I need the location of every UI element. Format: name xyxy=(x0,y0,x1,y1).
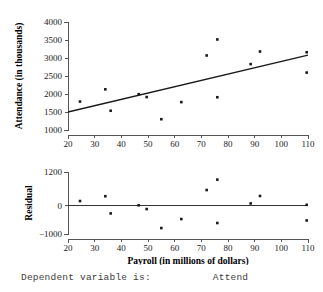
dependent-variable-label: Dependent variable is: xyxy=(21,272,151,283)
x-tick-label: 50 xyxy=(144,243,154,253)
residual-scatter-plot: −100001200Residual2030405060708090100110… xyxy=(24,167,315,265)
data-point xyxy=(216,96,219,99)
data-point xyxy=(145,208,148,211)
data-point xyxy=(79,200,82,203)
dependent-variable-value: Attend xyxy=(213,272,248,283)
x-tick-label: 30 xyxy=(90,139,100,149)
data-point xyxy=(216,222,219,225)
regression-figure: 1000150020002500300035004000Attendance (… xyxy=(0,0,323,292)
x-axis-title: Payroll (in millions of dollars) xyxy=(127,256,248,265)
x-tick-label: 30 xyxy=(90,243,100,253)
x-axis-spine xyxy=(68,239,308,243)
data-point xyxy=(305,204,308,207)
data-point xyxy=(216,38,219,41)
charts-svg: 1000150020002500300035004000Attendance (… xyxy=(0,0,323,265)
x-tick-label: 110 xyxy=(301,139,315,149)
data-point xyxy=(259,195,262,198)
data-point xyxy=(104,195,107,198)
regression-line xyxy=(68,55,308,112)
y-axis-spine xyxy=(64,172,68,234)
y-tick-label: 1000 xyxy=(44,125,63,135)
x-tick-label: 70 xyxy=(197,139,207,149)
x-tick-label: 40 xyxy=(117,139,127,149)
y-tick-label: 3500 xyxy=(44,35,63,45)
data-point xyxy=(145,96,148,99)
data-point xyxy=(109,212,112,215)
data-point xyxy=(104,88,107,91)
data-point xyxy=(109,109,112,112)
y-tick-label: 3000 xyxy=(44,53,63,63)
data-point xyxy=(305,219,308,222)
x-tick-label: 70 xyxy=(197,243,207,253)
x-tick-label: 50 xyxy=(144,139,154,149)
attendance-scatter-plot: 1000150020002500300035004000Attendance (… xyxy=(14,17,315,149)
x-axis-spine xyxy=(68,135,308,139)
data-point xyxy=(249,63,252,66)
data-point xyxy=(180,218,183,221)
data-point xyxy=(216,178,219,181)
y-tick-label: 4000 xyxy=(44,17,63,27)
x-tick-label: 80 xyxy=(224,139,234,149)
y-tick-label: −1000 xyxy=(39,229,63,239)
data-point xyxy=(305,51,308,54)
data-point xyxy=(249,202,252,205)
x-tick-label: 90 xyxy=(250,139,260,149)
y-axis-title: Attendance (in thousands) xyxy=(14,23,25,130)
data-point xyxy=(180,101,183,104)
data-point xyxy=(137,204,140,207)
data-point xyxy=(259,50,262,53)
x-tick-label: 40 xyxy=(117,243,127,253)
data-point xyxy=(160,227,163,230)
x-tick-label: 20 xyxy=(64,139,74,149)
x-tick-label: 100 xyxy=(275,243,289,253)
data-point xyxy=(160,118,163,121)
y-tick-label: 2000 xyxy=(44,89,63,99)
data-point xyxy=(137,93,140,96)
x-tick-label: 90 xyxy=(250,243,260,253)
y-axis-title: Residual xyxy=(24,185,34,221)
data-point xyxy=(205,54,208,57)
y-tick-label: 0 xyxy=(58,201,63,211)
x-tick-label: 20 xyxy=(64,243,74,253)
data-point xyxy=(79,100,82,103)
y-tick-label: 1200 xyxy=(44,167,63,177)
data-point xyxy=(305,71,308,74)
data-point xyxy=(205,189,208,192)
y-tick-label: 2500 xyxy=(44,71,63,81)
x-tick-label: 80 xyxy=(224,243,234,253)
y-tick-label: 1500 xyxy=(44,107,63,117)
x-tick-label: 100 xyxy=(275,139,289,149)
x-tick-label: 60 xyxy=(170,243,180,253)
x-tick-label: 110 xyxy=(301,243,315,253)
dependent-variable-line: Dependent variable is:Attend xyxy=(21,272,311,283)
x-tick-label: 60 xyxy=(170,139,180,149)
